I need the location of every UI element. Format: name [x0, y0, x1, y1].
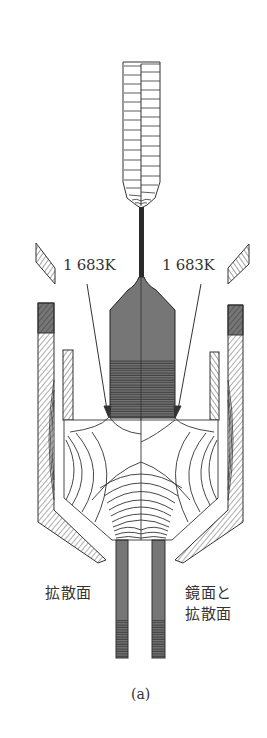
reflector-left	[36, 243, 55, 284]
feed-rod	[123, 62, 160, 208]
reflector-right	[228, 244, 249, 284]
figure-caption: (a)	[131, 687, 150, 701]
inner-wall-left	[63, 350, 73, 420]
melt-zone	[64, 418, 218, 540]
temp-label-left: 1 683K	[63, 258, 115, 273]
neck	[139, 207, 144, 277]
inner-wall-right	[210, 352, 219, 420]
surface-label-left: 拡散面	[45, 586, 92, 601]
furnace-isotherm-diagram: 1 683K 1 683K 拡散面 鏡面と 拡散面 (a)	[0, 0, 267, 738]
temp-label-right: 1 683K	[162, 258, 214, 273]
diagram-canvas	[0, 0, 267, 738]
surface-label-right-line1: 鏡面と	[185, 586, 232, 601]
surface-label-right-line2: 拡散面	[185, 607, 232, 622]
